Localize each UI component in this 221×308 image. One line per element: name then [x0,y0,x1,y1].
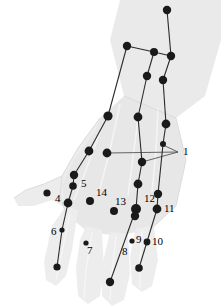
acupoint-node-n-mcp-left[interactable] [64,199,73,208]
point-label-10: 10 [152,235,164,247]
acupoint-node-n-tip-middle[interactable] [106,278,114,286]
point-label-4: 4 [55,192,61,204]
acupoint-node-n-midhand-left[interactable] [85,147,94,156]
acupoint-node-n-point-13[interactable] [110,207,118,215]
point-label-1: 1 [183,145,189,157]
acupoint-node-n-point-5[interactable] [69,182,77,190]
acupoint-node-n-point-1b[interactable] [138,158,146,166]
acupoint-node-n-ulnar-small[interactable] [160,141,166,147]
point-label-6: 6 [51,225,57,237]
acupoint-node-n-forearm-branch-a[interactable] [150,48,158,56]
point-label-13: 13 [115,195,127,207]
acupoint-node-n-forearm-mid-left[interactable] [123,42,131,50]
acupoint-node-n-tip-ring[interactable] [135,264,143,272]
acupoint-node-n-forearm-branch-b[interactable] [167,52,175,60]
hand-acupoint-diagram: 14567891011121314 [0,0,221,308]
acupoint-node-n-hand-top-right[interactable] [162,120,171,129]
acupoint-node-n-point-14[interactable] [86,197,94,205]
acupoint-node-n-point-11[interactable] [153,205,162,214]
acupoint-node-n-point-6[interactable] [59,227,64,232]
acupoint-node-n-point-1a[interactable] [103,149,112,158]
point-label-5: 5 [81,177,87,189]
acupoint-node-n-tip-index[interactable] [53,263,60,270]
acupoint-node-n-hand-top-mid[interactable] [134,113,143,122]
acupoint-node-n-point-4[interactable] [43,189,50,196]
acupoint-node-n-midhand-left2[interactable] [70,171,78,179]
point-label-12: 12 [144,192,155,204]
acupoint-node-n-wrist-top-right[interactable] [163,6,171,14]
point-label-9: 9 [136,233,142,245]
point-label-14: 14 [96,186,108,198]
acupoint-node-n-forearm-lower-left[interactable] [143,72,151,80]
acupoint-node-n-right-col-a[interactable] [154,190,162,198]
acupoint-node-n-point-10[interactable] [144,239,151,246]
acupoint-node-n-point-12b[interactable] [131,212,139,220]
acupoint-node-n-point-9[interactable] [129,238,134,243]
acupoint-node-n-mid-col-a[interactable] [134,180,143,189]
point-label-8: 8 [122,245,128,257]
point-label-7: 7 [87,244,93,256]
middle-finger-shape [76,226,104,304]
acupoint-node-n-forearm-lower-right[interactable] [159,76,167,84]
acupoint-node-n-hand-top-left[interactable] [103,111,112,120]
palm-shape [60,96,186,236]
point-label-11: 11 [164,202,175,214]
index-finger-shape [44,206,78,286]
